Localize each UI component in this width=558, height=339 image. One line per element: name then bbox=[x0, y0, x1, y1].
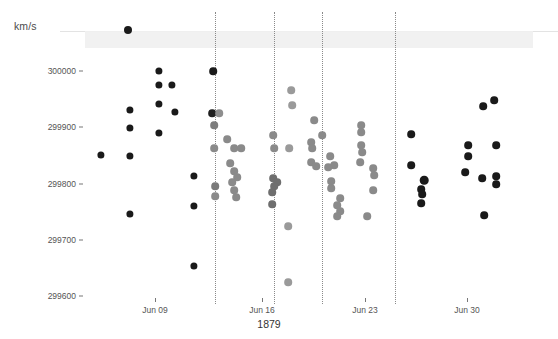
gridline-vertical-2 bbox=[322, 12, 323, 304]
x-tick-mark bbox=[262, 298, 263, 302]
gridline-vertical-1 bbox=[274, 12, 275, 304]
y-tick-label: 299800 bbox=[34, 179, 76, 189]
y-tick-mark bbox=[79, 71, 83, 72]
x-axis-title: 1879 bbox=[0, 318, 538, 330]
x-tick-mark bbox=[467, 298, 468, 302]
y-axis-title: km/s bbox=[14, 20, 37, 32]
y-tick-mark bbox=[79, 296, 83, 297]
x-tick-label: Jun 30 bbox=[454, 305, 480, 315]
y-tick-label: 299600 bbox=[34, 291, 76, 301]
x-tick-label: Jun 23 bbox=[352, 305, 378, 315]
x-tick-label: Jun 16 bbox=[249, 305, 275, 315]
x-tick-mark bbox=[365, 298, 366, 302]
y-tick-mark bbox=[79, 239, 83, 240]
gridline-vertical-0 bbox=[215, 12, 216, 304]
y-tick-label: 299900 bbox=[34, 122, 76, 132]
y-tick-label: 300000 bbox=[34, 66, 76, 76]
x-tick-mark bbox=[155, 298, 156, 302]
x-tick-label: Jun 09 bbox=[142, 305, 168, 315]
top-banner-strip bbox=[85, 31, 533, 48]
y-tick-mark bbox=[79, 127, 83, 128]
y-tick-mark bbox=[79, 183, 83, 184]
gridline-vertical-3 bbox=[395, 12, 396, 304]
plot-panel bbox=[85, 18, 533, 298]
y-tick-label: 299700 bbox=[34, 235, 76, 245]
